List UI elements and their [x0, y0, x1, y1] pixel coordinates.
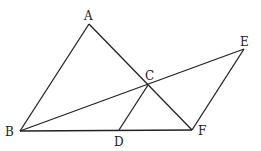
segment-BF: [20, 130, 192, 131]
label-D: D: [114, 135, 124, 149]
segment-AB: [20, 24, 89, 131]
label-E: E: [240, 35, 249, 49]
label-A: A: [83, 9, 93, 23]
geometry-diagram: A B C D E F: [0, 0, 261, 151]
label-C: C: [145, 69, 154, 83]
segment-AF: [89, 24, 192, 130]
segment-EF: [192, 49, 244, 130]
segment-CD: [119, 85, 148, 130]
label-B: B: [5, 125, 14, 139]
label-F: F: [198, 124, 206, 138]
segment-BE: [20, 49, 244, 131]
